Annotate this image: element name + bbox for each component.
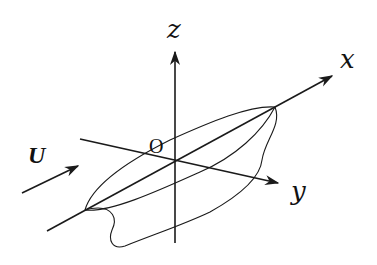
origin-label: O — [149, 136, 163, 156]
coordinate-diagram — [0, 0, 377, 265]
z-axis-label: z — [167, 16, 181, 42]
y-axis — [80, 139, 278, 183]
flow-arrow — [22, 166, 78, 193]
x-axis — [47, 76, 332, 231]
x-axis-label: x — [340, 46, 355, 72]
flow-label: U — [28, 143, 45, 167]
y-axis-label: y — [291, 178, 306, 204]
